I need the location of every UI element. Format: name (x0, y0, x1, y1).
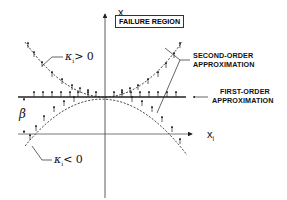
beta-label: β (19, 108, 26, 120)
second-order-line2: APPROXIMATION (193, 61, 254, 68)
positive-curve-arrows (28, 42, 180, 95)
first-order-line1: FIRST-ORDER (212, 88, 273, 95)
beta-symbol: β (19, 107, 26, 121)
kappa-positive-leader (42, 57, 63, 66)
kappa-negative-relation: < 0 (63, 153, 83, 166)
second-order-curve-negative (25, 99, 187, 155)
horizontal-axis-subscript: i (213, 135, 215, 142)
horizontal-axis-label: xi (207, 129, 214, 142)
second-order-label: SECOND-ORDER APPROXIMATION (193, 52, 254, 68)
kappa-negative-leader (32, 146, 52, 160)
second-order-leader-lower (157, 60, 180, 113)
kappa-negative-label: κi< 0 (54, 154, 83, 167)
second-order-line1: SECOND-ORDER (193, 52, 254, 59)
second-order-leader (165, 48, 190, 60)
kappa-positive-relation: > 0 (74, 50, 94, 63)
first-order-label: FIRST-ORDER APPROXIMATION (212, 88, 273, 104)
second-order-curve-positive (25, 42, 182, 97)
failure-region-label: FAILURE REGION (115, 15, 184, 28)
first-order-line2: APPROXIMATION (212, 97, 273, 104)
kappa-positive-label: κi> 0 (65, 51, 94, 64)
